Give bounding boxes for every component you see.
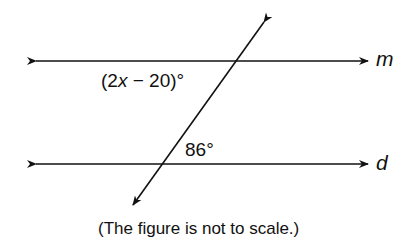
line-d-label: d [376, 152, 388, 173]
angle-upper-prefix: (2 [101, 70, 118, 91]
angle-label-lower: 86° [185, 140, 214, 159]
angle-upper-suffix: − 20)° [127, 70, 184, 91]
angle-upper-variable: x [118, 70, 128, 91]
line-m-label: m [376, 48, 394, 69]
angle-label-upper: (2x − 20)° [101, 71, 184, 90]
transversal-line [133, 22, 264, 205]
geometry-figure [0, 0, 410, 243]
diagram-canvas: m d (2x − 20)° 86° (The figure is not to… [0, 0, 410, 243]
figure-caption: (The figure is not to scale.) [98, 220, 299, 237]
